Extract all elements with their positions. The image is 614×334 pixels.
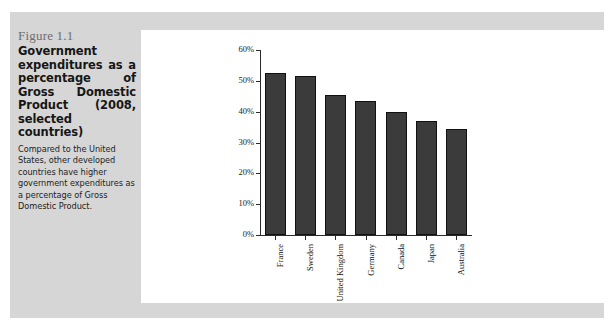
x-axis-label-australia: Australia: [456, 244, 466, 275]
y-axis-tick-mark: [256, 235, 260, 236]
y-axis-tick-label: 60%: [238, 44, 254, 54]
y-axis-tick-label: 50%: [238, 75, 254, 85]
x-axis-tick-mark: [426, 236, 427, 240]
y-axis-tick-label: 40%: [238, 106, 254, 116]
x-axis-tick-mark: [456, 236, 457, 240]
x-axis-tick-mark: [305, 236, 306, 240]
x-axis-label-japan: Japan: [426, 244, 436, 263]
x-axis-label-germany: Germany: [366, 244, 376, 276]
bar-germany[interactable]: [355, 101, 376, 235]
y-axis-tick-mark: [256, 173, 260, 174]
x-axis-label-sweden: Sweden: [305, 244, 315, 271]
figure-block: Figure 1.1 Government expenditures as a …: [10, 12, 604, 318]
bar-canada[interactable]: [386, 112, 407, 235]
bar-japan[interactable]: [416, 121, 437, 235]
x-axis-label-canada: Canada: [396, 244, 406, 270]
figure-caption: Figure 1.1 Government expenditures as a …: [18, 28, 136, 213]
x-axis-label-france: France: [275, 244, 285, 267]
figure-description: Compared to the United States, other dev…: [18, 144, 136, 213]
x-axis-tick-mark: [366, 236, 367, 240]
bar-france[interactable]: [265, 73, 286, 235]
y-axis-tick-label: 0%: [243, 229, 254, 239]
figure-title: Government expenditures as a percentage …: [18, 45, 136, 140]
y-axis-tick-mark: [256, 81, 260, 82]
figure-number: Figure 1.1: [18, 28, 136, 43]
bar-united-kingdom[interactable]: [325, 95, 346, 235]
y-axis-tick-mark: [256, 50, 260, 51]
y-axis-tick-label: 10%: [238, 198, 254, 208]
bar-chart-plot-area: 0%10%20%30%40%50%60% FranceSwedenUnited …: [260, 50, 472, 236]
y-axis-tick-label: 20%: [238, 167, 254, 177]
x-axis-label-united-kingdom: United Kingdom: [335, 244, 345, 301]
x-axis-tick-mark: [396, 236, 397, 240]
chart-panel: 0%10%20%30%40%50%60% FranceSwedenUnited …: [141, 30, 604, 303]
y-axis-tick-mark: [256, 143, 260, 144]
x-axis-tick-mark: [275, 236, 276, 240]
y-axis-tick-mark: [256, 204, 260, 205]
bar-australia[interactable]: [446, 129, 467, 235]
bar-series: [261, 50, 472, 235]
y-axis-tick-mark: [256, 112, 260, 113]
bar-sweden[interactable]: [295, 76, 316, 235]
x-axis-tick-mark: [335, 236, 336, 240]
y-axis-tick-label: 30%: [238, 137, 254, 147]
